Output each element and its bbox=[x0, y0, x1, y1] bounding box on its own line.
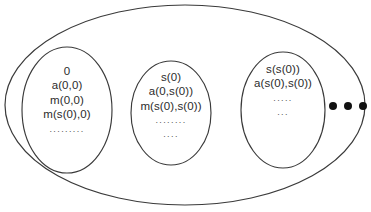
ellipsis-label: ... bbox=[238, 106, 328, 119]
ellipsis-label: ......... bbox=[22, 122, 112, 137]
term-label: m(0,0) bbox=[22, 93, 112, 107]
diagram-canvas: 0 a(0,0) m(0,0) m(s(0),0) ......... s(0)… bbox=[0, 0, 371, 212]
term-label: 0 bbox=[22, 64, 112, 78]
ellipsis-label: ........ bbox=[130, 113, 212, 128]
term-label: m(s(0),s(0)) bbox=[130, 99, 212, 113]
class-0-terms: 0 a(0,0) m(0,0) m(s(0),0) ......... bbox=[22, 64, 112, 137]
term-label: s(0) bbox=[130, 70, 212, 84]
ellipsis-label: ..... bbox=[238, 91, 328, 106]
term-label: a(s(0),s(0)) bbox=[238, 76, 328, 90]
class-ss0-terms: s(s(0)) a(s(0),s(0)) ..... ... bbox=[238, 62, 328, 119]
term-label: s(s(0)) bbox=[238, 62, 328, 76]
diagram-text-layer: 0 a(0,0) m(0,0) m(s(0),0) ......... s(0)… bbox=[0, 0, 371, 212]
ellipsis-label: .... bbox=[130, 128, 212, 141]
term-label: a(0,s(0)) bbox=[130, 84, 212, 98]
class-s0-terms: s(0) a(0,s(0)) m(s(0),s(0)) ........ ...… bbox=[130, 70, 212, 141]
term-label: a(0,0) bbox=[22, 78, 112, 92]
term-label: m(s(0),0) bbox=[22, 107, 112, 121]
